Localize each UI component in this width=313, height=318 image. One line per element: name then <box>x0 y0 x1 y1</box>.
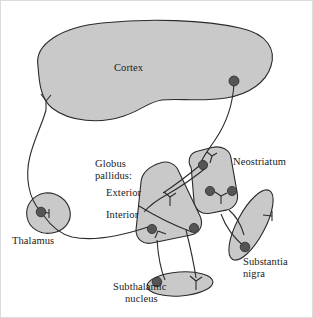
label-interior: Interior <box>106 209 138 222</box>
soma-gp-exterior <box>189 223 198 232</box>
label-thalamus: Thalamus <box>12 235 54 248</box>
basal-ganglia-diagram: Cortex Neostriatum Globus pallidus: Exte… <box>0 0 313 318</box>
soma-neostriatum-top <box>198 160 207 169</box>
soma-gp-interior <box>147 224 156 233</box>
label-cortex: Cortex <box>114 62 143 75</box>
label-neostriatum: Neostriatum <box>233 156 286 169</box>
label-subthalamic-2: nucleus <box>125 293 158 306</box>
soma-cortex <box>229 76 239 86</box>
axon-gp-interior-to-subthalamic <box>186 230 196 278</box>
cortex-shape <box>38 20 273 120</box>
label-substantia-nigra-1: Substantia <box>243 256 288 269</box>
soma-neostriatum-right <box>227 186 236 195</box>
soma-substantia-nigra <box>240 242 250 252</box>
soma-thalamus <box>36 207 46 217</box>
label-globus-pallidus-1: Globus <box>95 158 126 171</box>
label-globus-pallidus-2: pallidus: <box>95 170 132 183</box>
label-exterior: Exterior <box>106 187 141 200</box>
label-subthalamic-1: Subthalamic <box>113 281 167 294</box>
label-substantia-nigra-2: nigra <box>243 268 265 281</box>
soma-neostriatum-mid <box>205 186 214 195</box>
